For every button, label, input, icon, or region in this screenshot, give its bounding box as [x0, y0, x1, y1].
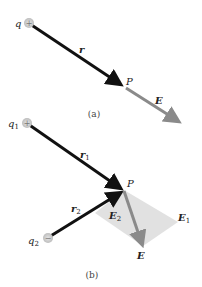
charge-q1-label: q1 — [8, 118, 19, 131]
charge-q2-sign: − — [45, 234, 52, 243]
electric-field-diagram: + q r P E (a) + q1 r1 − q2 r2 P E2 E1 E … — [0, 0, 202, 287]
field-vector-E — [126, 88, 178, 121]
position-vector-r1 — [28, 124, 120, 188]
vector-r-label: r — [79, 44, 85, 55]
position-vector-r — [30, 24, 120, 84]
point-p-label: P — [125, 76, 133, 87]
caption-a: (a) — [88, 109, 100, 119]
point-p-label-b: P — [126, 178, 134, 189]
vector-E-resultant-label: E — [136, 250, 145, 261]
charge-q-sign: + — [26, 19, 33, 28]
charge-q2-label: q2 — [28, 235, 39, 248]
charge-q1-sign: + — [24, 119, 31, 128]
panel-b: + q1 r1 − q2 r2 P E2 E1 E (b) — [8, 118, 190, 280]
parallelogram-construction — [95, 190, 178, 246]
vector-r2-label: r2 — [71, 203, 81, 216]
vector-E-label: E — [154, 95, 163, 106]
caption-b: (b) — [86, 270, 99, 280]
charge-q-label: q — [15, 18, 21, 29]
panel-a: + q r P E (a) — [15, 18, 178, 121]
vector-E1-label: E1 — [177, 212, 190, 225]
